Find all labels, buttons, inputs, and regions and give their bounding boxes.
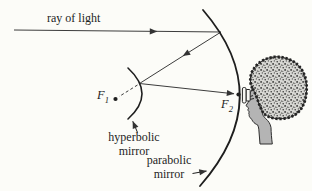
f2-point [236, 92, 240, 96]
ray-to-f2 [140, 84, 235, 94]
observer-head [246, 57, 307, 144]
parabolic-mirror-label: parabolic mirror [128, 154, 210, 181]
reflected-ray-to-hyperbolic-mirror [140, 32, 222, 84]
f1-point [113, 97, 117, 101]
eyepiece-lens-icon [242, 88, 250, 104]
focus-f1-label: F1 [97, 89, 109, 103]
hyperbolic-mirror-arc [128, 68, 142, 119]
focus-f2-label: F2 [221, 98, 233, 112]
incident-ray [14, 30, 221, 32]
ray-of-light-label: ray of light [47, 12, 100, 26]
virtual-ray-to-f1-dashed [119, 85, 138, 97]
eye-line [251, 99, 254, 100]
telescope-optics-figure: ray of light F1 F2 hyperbolic mirror par… [0, 0, 312, 191]
